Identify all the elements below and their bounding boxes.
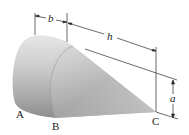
label-point-b: B	[52, 120, 59, 132]
cone-surface	[50, 46, 156, 118]
cone-diagram: b h a A B C	[0, 0, 189, 135]
label-point-c: C	[152, 115, 159, 127]
label-point-a: A	[16, 108, 24, 120]
solid-body	[13, 35, 156, 118]
label-a: a	[170, 92, 176, 104]
label-b: b	[48, 12, 54, 24]
figure-canvas: b h a A B C	[0, 0, 189, 135]
label-h: h	[107, 30, 113, 42]
